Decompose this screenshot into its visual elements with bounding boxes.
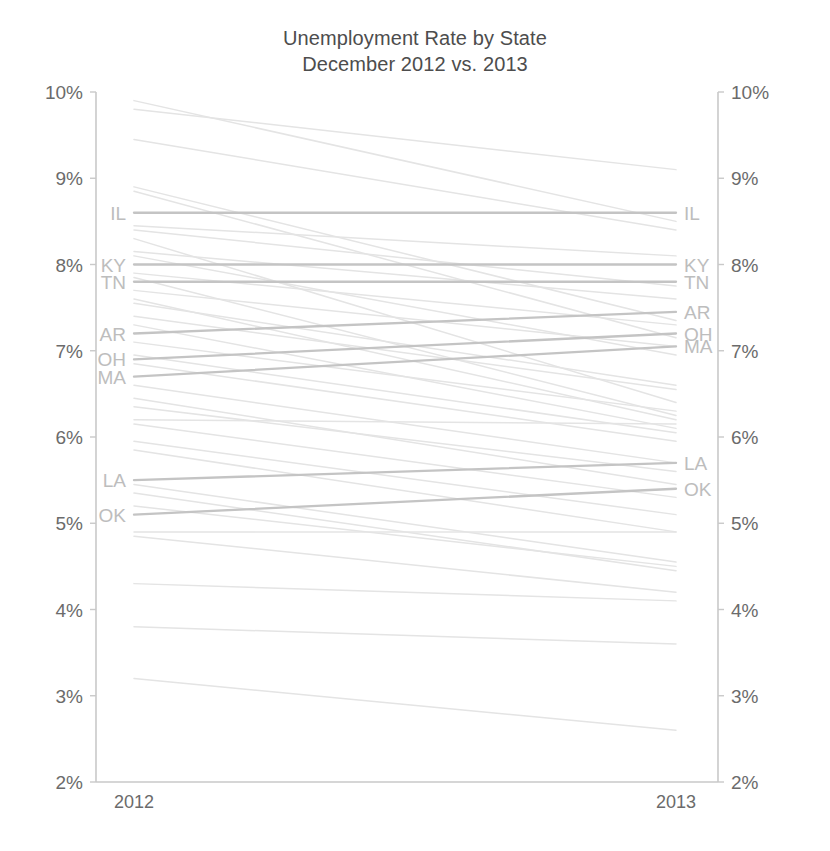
slope-line bbox=[134, 139, 676, 230]
state-label-right: LA bbox=[684, 453, 708, 474]
slope-line bbox=[134, 536, 676, 592]
state-label-left: TN bbox=[101, 272, 126, 293]
slope-line bbox=[134, 334, 676, 360]
state-label-left: MA bbox=[98, 367, 127, 388]
y-tick-label-left: 10% bbox=[45, 82, 83, 103]
slope-chart: Unemployment Rate by State December 2012… bbox=[0, 0, 830, 851]
y-tick-label-right: 8% bbox=[731, 255, 759, 276]
slope-line bbox=[134, 506, 676, 566]
state-label-right: MA bbox=[684, 336, 713, 357]
state-label-right: AR bbox=[684, 302, 710, 323]
y-tick-label-left: 2% bbox=[56, 772, 84, 793]
slope-line bbox=[134, 346, 676, 376]
slope-line bbox=[134, 584, 676, 601]
chart-title-block: Unemployment Rate by State December 2012… bbox=[0, 26, 830, 77]
y-tick-label-left: 5% bbox=[56, 513, 84, 534]
y-tick-label-right: 10% bbox=[731, 82, 769, 103]
state-label-left: AR bbox=[100, 324, 126, 345]
slope-line bbox=[134, 679, 676, 731]
y-tick-label-left: 9% bbox=[56, 168, 84, 189]
slope-line bbox=[134, 627, 676, 644]
y-tick-label-left: 3% bbox=[56, 686, 84, 707]
slope-line bbox=[134, 489, 676, 515]
state-label-group: ILILKYKYTNTNARAROHOHMAMALALAOKOK bbox=[98, 203, 713, 526]
axis-group bbox=[90, 92, 724, 782]
slope-line bbox=[134, 364, 676, 442]
slope-line bbox=[134, 226, 676, 256]
slope-line bbox=[134, 424, 676, 497]
y-tick-label-right: 5% bbox=[731, 513, 759, 534]
state-label-left: IL bbox=[110, 203, 126, 224]
y-tick-label-left: 8% bbox=[56, 255, 84, 276]
state-label-left: LA bbox=[103, 470, 127, 491]
tick-label-group: 10%10%9%9%8%8%7%7%6%6%5%5%4%4%3%3%2%2% bbox=[45, 82, 769, 793]
y-tick-label-right: 4% bbox=[731, 600, 759, 621]
y-tick-label-right: 6% bbox=[731, 427, 759, 448]
slope-line bbox=[134, 187, 676, 321]
y-tick-label-right: 7% bbox=[731, 341, 759, 362]
y-tick-label-left: 6% bbox=[56, 427, 84, 448]
chart-subtitle: December 2012 vs. 2013 bbox=[0, 52, 830, 78]
y-tick-label-left: 7% bbox=[56, 341, 84, 362]
state-label-right: IL bbox=[684, 203, 700, 224]
state-label-right: OK bbox=[684, 479, 712, 500]
page-title: Unemployment Rate by State bbox=[0, 26, 830, 52]
y-tick-label-right: 9% bbox=[731, 168, 759, 189]
y-tick-label-left: 4% bbox=[56, 600, 84, 621]
y-tick-label-right: 3% bbox=[731, 686, 759, 707]
x-axis-label-group: 20122013 bbox=[114, 792, 696, 812]
y-tick-label-right: 2% bbox=[731, 772, 759, 793]
faint-line-group bbox=[134, 101, 676, 731]
x-tick-label: 2013 bbox=[656, 792, 696, 812]
state-label-right: TN bbox=[684, 272, 709, 293]
state-label-left: OK bbox=[99, 505, 127, 526]
slope-line bbox=[134, 484, 676, 562]
x-tick-label: 2012 bbox=[114, 792, 154, 812]
plot-area: 10%10%9%9%8%8%7%7%6%6%5%5%4%4%3%3%2%2% I… bbox=[0, 0, 830, 851]
